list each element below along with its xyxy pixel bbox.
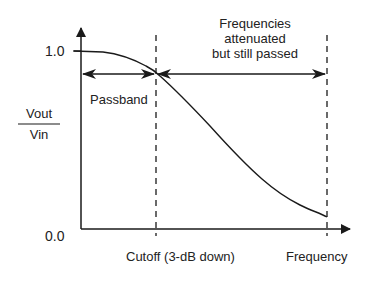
attenuated-label-1: Frequencies — [195, 16, 315, 31]
cutoff-label: Cutoff (3-dB down) — [126, 249, 235, 264]
attenuated-label-2: attenuated — [195, 31, 315, 46]
x-axis-label: Frequency — [286, 249, 347, 264]
y-axis-numerator: Vout — [18, 106, 60, 121]
y-tick-1-label: 1.0 — [45, 44, 64, 59]
passband-label: Passband — [90, 92, 148, 107]
attenuated-label-3: but still passed — [195, 46, 315, 61]
response-curve — [74, 51, 327, 217]
y-axis-denominator: Vin — [18, 127, 60, 142]
y-tick-0-label: 0.0 — [45, 229, 64, 244]
